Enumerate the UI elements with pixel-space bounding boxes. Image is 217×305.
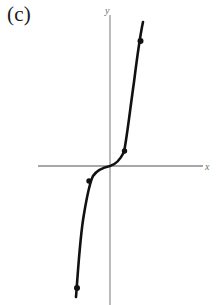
plot-area: x y: [0, 0, 217, 305]
curve-endpoint-lower-marker: [74, 285, 80, 291]
y-axis-label: y: [104, 5, 110, 16]
figure-container: (c) x y: [0, 0, 217, 305]
curve-markers-group: [74, 38, 144, 291]
x-axis-label: x: [204, 161, 210, 172]
curve-point-lower-marker: [86, 178, 91, 183]
curve-point-upper-marker: [122, 148, 127, 153]
curve-endpoint-upper-marker: [138, 38, 144, 44]
